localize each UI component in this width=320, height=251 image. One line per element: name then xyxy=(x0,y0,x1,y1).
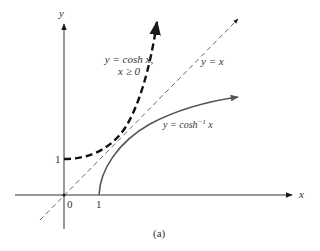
x-axis-label: x xyxy=(299,188,304,200)
cosh-label-line1: y = cosh x, xyxy=(99,53,159,65)
arccosh-curve-label: y = cosh−1 x xyxy=(163,119,213,131)
identity-line-label: y = x xyxy=(201,55,224,67)
arccosh-curve xyxy=(99,97,238,195)
origin-point xyxy=(62,193,65,196)
cosh-label-line2: x ≥ 0 xyxy=(99,65,159,77)
y-tick-label-1: 1 xyxy=(55,153,61,165)
arccosh-label-suffix: x xyxy=(206,119,213,130)
cosh-curve-label: y = cosh x, x ≥ 0 xyxy=(99,53,159,77)
cosh-curve xyxy=(64,22,157,159)
arccosh-label-sup: −1 xyxy=(198,118,206,126)
x-tick-label-1: 1 xyxy=(96,198,102,210)
origin-label: 0 xyxy=(67,198,73,210)
plot-canvas xyxy=(0,0,320,251)
y-axis-label: y xyxy=(59,7,64,19)
cosh-inverse-figure: y x 0 1 1 y = cosh x, x ≥ 0 y = x y = co… xyxy=(0,0,320,251)
arccosh-label-prefix: y = cosh xyxy=(163,119,198,130)
figure-caption: (a) xyxy=(153,227,165,239)
